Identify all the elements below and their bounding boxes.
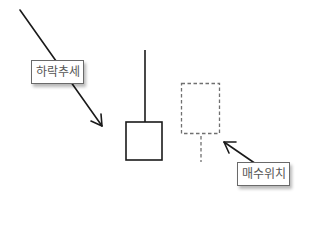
solid-candlestick — [126, 50, 162, 160]
buy-position-arrow — [224, 142, 256, 164]
downtrend-label: 하락추세 — [31, 60, 84, 84]
candle-body — [126, 122, 162, 160]
buy-position-label: 매수위치 — [237, 162, 290, 186]
dashed-candle-body — [182, 84, 220, 134]
dashed-candlestick — [182, 84, 220, 163]
downtrend-label-text: 하락추세 — [36, 65, 80, 79]
buy-position-label-text: 매수위치 — [242, 167, 286, 181]
